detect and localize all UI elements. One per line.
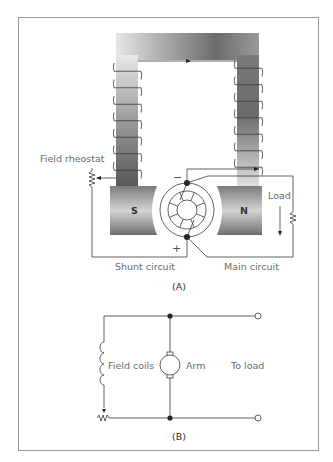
negative-sign: − xyxy=(173,171,182,184)
to-load-label: To load xyxy=(230,360,264,371)
panel-b-caption: (B) xyxy=(172,431,186,442)
load-terminal-top xyxy=(255,313,261,319)
load-terminal-bottom xyxy=(255,415,261,421)
diagram-canvas: S N − + Field xyxy=(0,0,333,462)
magnet-yoke xyxy=(116,33,259,188)
rheostat-wiper-arrow-icon xyxy=(96,176,101,180)
south-pole-label: S xyxy=(131,205,138,216)
armature-label: Arm xyxy=(186,360,206,371)
panel-a-caption: (A) xyxy=(172,281,186,292)
north-pole-label: N xyxy=(240,205,248,216)
panel-b: Field coils Arm To load (B) xyxy=(97,313,264,442)
armature xyxy=(160,183,214,237)
rheostat-arrow-icon xyxy=(102,409,106,413)
positive-sign: + xyxy=(172,242,181,255)
schematic-rheostat-icon xyxy=(97,415,110,421)
field-coil-icon xyxy=(100,342,104,385)
panel-a: S N − + Field xyxy=(40,33,296,292)
load-label: Load xyxy=(268,190,291,201)
shunt-circuit-label: Shunt circuit xyxy=(115,261,175,272)
field-rheostat-label: Field rheostat xyxy=(40,153,105,164)
armature-symbol-icon xyxy=(160,352,180,378)
field-rheostat-icon xyxy=(89,168,95,189)
arrow-down-icon xyxy=(278,231,282,236)
field-coils-label: Field coils xyxy=(108,360,154,371)
main-circuit-label: Main circuit xyxy=(224,261,279,272)
load-resistor-icon xyxy=(290,210,296,226)
bottom-node xyxy=(167,415,172,420)
top-node xyxy=(167,313,172,318)
